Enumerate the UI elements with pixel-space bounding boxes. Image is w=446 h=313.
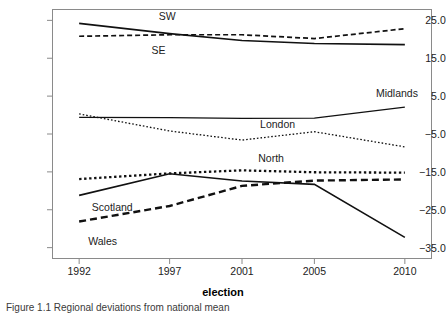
y-tick-label: −5.0	[402, 128, 446, 140]
series-line-midlands	[79, 107, 405, 118]
series-line-sw	[79, 29, 405, 39]
x-tick-label: 2010	[375, 265, 435, 277]
axis-tick-marks	[47, 20, 405, 264]
series-label-midlands: Midlands	[376, 87, 418, 99]
series-label-se: SE	[152, 44, 166, 56]
y-tick-label: 25.0	[402, 14, 446, 26]
figure-caption: Figure 1.1 Regional deviations from nati…	[6, 302, 446, 313]
x-tick-label: 1997	[140, 265, 200, 277]
x-axis-title: election	[0, 286, 446, 298]
x-tick-label: 1992	[49, 265, 109, 277]
x-tick-label: 2001	[212, 265, 272, 277]
y-tick-label: −35.0	[402, 242, 446, 254]
series-label-north: North	[258, 152, 284, 164]
series-line-north	[79, 170, 405, 179]
series-label-scotland: Scotland	[92, 201, 133, 213]
y-tick-label: −15.0	[402, 166, 446, 178]
series-label-sw: SW	[159, 10, 176, 22]
series-label-london: London	[260, 118, 295, 130]
series-label-wales: Wales	[88, 235, 117, 247]
y-tick-label: 15.0	[402, 52, 446, 64]
x-tick-label: 2005	[284, 265, 344, 277]
y-tick-label: −25.0	[402, 204, 446, 216]
